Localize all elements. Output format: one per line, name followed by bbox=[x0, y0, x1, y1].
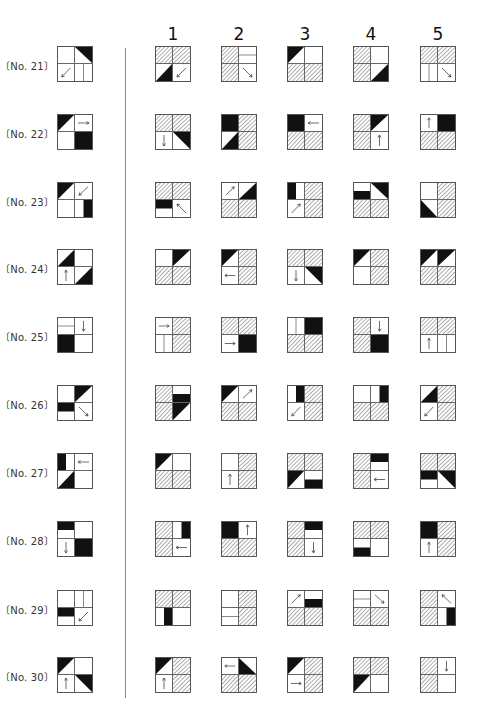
answer-option-3[interactable] bbox=[287, 182, 323, 218]
quadrant-br-solid bbox=[239, 335, 256, 352]
quadrant-br-hatched bbox=[438, 539, 455, 556]
quadrant-bl-hatched bbox=[421, 267, 438, 284]
quadrant-br-bar bbox=[305, 471, 322, 488]
quadrant-tr-triangle bbox=[438, 250, 455, 267]
problem-label: 〔No. 27〕 bbox=[0, 465, 50, 480]
quadrant-br-hatched bbox=[239, 132, 256, 149]
answer-option-5[interactable] bbox=[420, 317, 456, 353]
quadrant-br-hatched bbox=[239, 539, 256, 556]
answer-option-3[interactable] bbox=[287, 657, 323, 693]
answer-option-2[interactable] bbox=[221, 521, 257, 557]
answer-option-3[interactable] bbox=[287, 385, 323, 421]
answer-option-2[interactable] bbox=[221, 317, 257, 353]
quadrant-br-empty bbox=[75, 335, 92, 352]
quadrant-bl-line bbox=[222, 608, 239, 625]
answer-option-4[interactable] bbox=[353, 590, 389, 626]
answer-option-4[interactable] bbox=[353, 521, 389, 557]
answer-option-1[interactable] bbox=[155, 657, 191, 693]
answer-option-1[interactable] bbox=[155, 453, 191, 489]
quadrant-tr-arrow-up-left-icon bbox=[438, 591, 455, 608]
answer-option-4[interactable] bbox=[353, 385, 389, 421]
quadrant-bl-arrow-down-icon bbox=[156, 132, 173, 149]
quadrant-bl-empty bbox=[354, 267, 371, 284]
answer-option-3[interactable] bbox=[287, 46, 323, 82]
quadrant-tl-empty bbox=[156, 250, 173, 267]
answer-option-4[interactable] bbox=[353, 453, 389, 489]
quadrant-tl-triangle bbox=[156, 658, 173, 675]
stem-figure bbox=[57, 453, 93, 489]
answer-option-2[interactable] bbox=[221, 249, 257, 285]
quadrant-bl-triangle bbox=[354, 675, 371, 692]
answer-option-1[interactable] bbox=[155, 521, 191, 557]
answer-option-4[interactable] bbox=[353, 657, 389, 693]
quadrant-tr-hatched bbox=[173, 591, 190, 608]
quadrant-tl-bar bbox=[58, 522, 75, 539]
quadrant-tr-arrow-up-right-icon bbox=[239, 386, 256, 403]
quadrant-bl-arrow-up-icon bbox=[421, 539, 438, 556]
quadrant-br-empty bbox=[371, 539, 388, 556]
quadrant-tr-arrow-left-icon bbox=[75, 454, 92, 471]
answer-option-1[interactable] bbox=[155, 114, 191, 150]
answer-option-5[interactable] bbox=[420, 657, 456, 693]
quadrant-tl-triangle bbox=[288, 658, 305, 675]
answer-option-5[interactable] bbox=[420, 590, 456, 626]
answer-option-1[interactable] bbox=[155, 590, 191, 626]
quadrant-tl-arrow-up-right-icon bbox=[288, 591, 305, 608]
answer-option-5[interactable] bbox=[420, 453, 456, 489]
answer-option-3[interactable] bbox=[287, 249, 323, 285]
answer-option-5[interactable] bbox=[420, 249, 456, 285]
quadrant-tr-hatched bbox=[239, 250, 256, 267]
answer-option-3[interactable] bbox=[287, 114, 323, 150]
quadrant-br-triangle bbox=[371, 64, 388, 81]
quadrant-br-hatched bbox=[438, 132, 455, 149]
quadrant-tr-triangle bbox=[239, 658, 256, 675]
quadrant-bl-hatched bbox=[354, 132, 371, 149]
answer-option-2[interactable] bbox=[221, 114, 257, 150]
quadrant-bl-hatched bbox=[288, 608, 305, 625]
quadrant-br-hatched bbox=[239, 608, 256, 625]
quadrant-bl-bar bbox=[58, 608, 75, 625]
answer-option-2[interactable] bbox=[221, 46, 257, 82]
answer-option-4[interactable] bbox=[353, 182, 389, 218]
answer-option-5[interactable] bbox=[420, 521, 456, 557]
quadrant-bl-hatched bbox=[222, 675, 239, 692]
answer-option-1[interactable] bbox=[155, 182, 191, 218]
quadrant-bl-hatched bbox=[156, 471, 173, 488]
quadrant-br-arrow-up-icon bbox=[371, 132, 388, 149]
answer-option-4[interactable] bbox=[353, 114, 389, 150]
answer-option-4[interactable] bbox=[353, 249, 389, 285]
answer-option-5[interactable] bbox=[420, 114, 456, 150]
answer-option-2[interactable] bbox=[221, 385, 257, 421]
quadrant-tr-arrow-down-icon bbox=[75, 318, 92, 335]
quadrant-br-arrow-up-left-icon bbox=[173, 200, 190, 217]
answer-option-2[interactable] bbox=[221, 453, 257, 489]
answer-option-4[interactable] bbox=[353, 46, 389, 82]
answer-option-5[interactable] bbox=[420, 182, 456, 218]
answer-option-3[interactable] bbox=[287, 521, 323, 557]
quadrant-tl-triangle bbox=[58, 250, 75, 267]
answer-option-4[interactable] bbox=[353, 317, 389, 353]
answer-option-3[interactable] bbox=[287, 317, 323, 353]
answer-option-5[interactable] bbox=[420, 385, 456, 421]
quadrant-br-empty bbox=[371, 675, 388, 692]
answer-option-2[interactable] bbox=[221, 590, 257, 626]
answer-option-5[interactable] bbox=[420, 46, 456, 82]
answer-option-1[interactable] bbox=[155, 46, 191, 82]
quadrant-tr-hatched bbox=[239, 318, 256, 335]
answer-option-2[interactable] bbox=[221, 182, 257, 218]
answer-option-1[interactable] bbox=[155, 249, 191, 285]
answer-option-3[interactable] bbox=[287, 590, 323, 626]
quadrant-tl-bar bbox=[288, 386, 305, 403]
quadrant-bl-hatched bbox=[354, 200, 371, 217]
quadrant-bl-triangle bbox=[58, 471, 75, 488]
quadrant-tr-line bbox=[239, 47, 256, 64]
quadrant-tl-hatched bbox=[156, 115, 173, 132]
quadrant-tr-solid bbox=[305, 318, 322, 335]
answer-option-3[interactable] bbox=[287, 453, 323, 489]
answer-option-1[interactable] bbox=[155, 317, 191, 353]
answer-option-1[interactable] bbox=[155, 385, 191, 421]
quadrant-tl-solid bbox=[421, 522, 438, 539]
quadrant-tl-hatched bbox=[421, 454, 438, 471]
answer-option-2[interactable] bbox=[221, 657, 257, 693]
quadrant-tr-triangle bbox=[239, 183, 256, 200]
